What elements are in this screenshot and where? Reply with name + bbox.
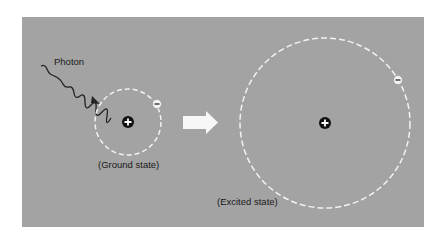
excited-electron-icon <box>394 76 403 85</box>
ground-state-label: (Ground state) <box>98 159 159 170</box>
excited-state-label: (Excited state) <box>217 196 278 207</box>
transition-arrow-icon <box>183 111 218 134</box>
excited-nucleus-icon <box>319 117 331 129</box>
ground-nucleus-icon <box>122 116 134 128</box>
ground-electron-icon <box>153 100 162 109</box>
photon-wave-icon <box>41 65 111 122</box>
photon-label: Photon <box>54 56 84 67</box>
